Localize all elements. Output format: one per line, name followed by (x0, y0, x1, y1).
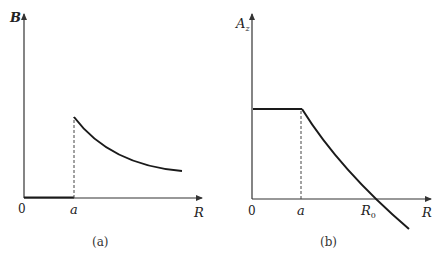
decay-curve-a (74, 117, 182, 171)
tick-a-a: a (70, 202, 78, 217)
origin-b: 0 (248, 204, 256, 218)
tick-r0-b: R0 (360, 203, 376, 220)
x-label-b: R (421, 205, 432, 220)
caption-b: (b) (320, 235, 337, 249)
decreasing-curve-b (302, 109, 409, 229)
origin-a: 0 (18, 202, 26, 216)
caption-a: (a) (92, 235, 109, 249)
x-label-a: R (193, 205, 204, 220)
panel-a: B R 0 a (a) (9, 10, 204, 249)
tick-a-b: a (297, 203, 305, 218)
panel-b: Az R 0 a R0 (b) (235, 14, 432, 249)
figure: B R 0 a (a) Az R 0 a R0 (b) (0, 0, 443, 268)
y-label-b: Az (235, 16, 250, 33)
y-label-a: B (9, 10, 21, 25)
